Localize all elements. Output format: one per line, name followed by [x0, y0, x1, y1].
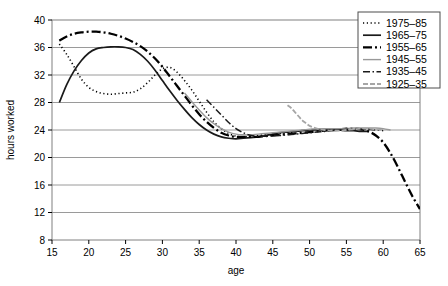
y-tick-label: 32 [34, 70, 46, 81]
y-tick-label: 28 [34, 97, 46, 108]
y-tick-label: 24 [34, 125, 46, 136]
legend-label-5: 1935–45 [386, 65, 427, 77]
x-tick-label: 20 [83, 247, 95, 258]
y-tick-label: 12 [34, 207, 46, 218]
legend-label-4: 1945–55 [386, 53, 427, 65]
x-tick-label: 55 [341, 247, 353, 258]
x-tick-label: 30 [157, 247, 169, 258]
y-tick-label: 20 [34, 152, 46, 163]
y-tick-label: 8 [39, 235, 45, 246]
y-tick-label: 36 [34, 42, 46, 53]
x-axis-title: age [228, 265, 245, 276]
x-tick-label: 15 [46, 247, 58, 258]
x-tick-label: 50 [304, 247, 316, 258]
x-tick-label: 25 [120, 247, 132, 258]
legend-label-1: 1975–85 [386, 17, 427, 29]
x-tick-label: 65 [414, 247, 426, 258]
y-tick-label: 16 [34, 180, 46, 191]
legend-label-3: 1955–65 [386, 41, 427, 53]
x-tick-label: 40 [230, 247, 242, 258]
y-axis-title: hours worked [5, 100, 16, 160]
x-tick-label: 45 [267, 247, 279, 258]
y-tick-label: 40 [34, 15, 46, 26]
x-tick-label: 60 [378, 247, 390, 258]
x-tick-label: 35 [194, 247, 206, 258]
line-chart: 812162024283236401520253035404550556065a… [0, 0, 448, 286]
chart-container: 812162024283236401520253035404550556065a… [0, 0, 448, 286]
legend-label-6: 1925–35 [386, 78, 427, 90]
legend-label-2: 1965–75 [386, 29, 427, 41]
